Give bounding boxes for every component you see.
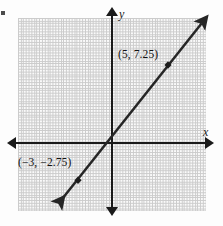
point-b-label: (−3, −2.75) (18, 157, 71, 169)
plotted-line-layer (0, 0, 223, 226)
coordinate-plane-figure: y x (5, 7.25) (−3, −2.75) (0, 0, 223, 226)
point-a-label: (5, 7.25) (118, 49, 158, 61)
